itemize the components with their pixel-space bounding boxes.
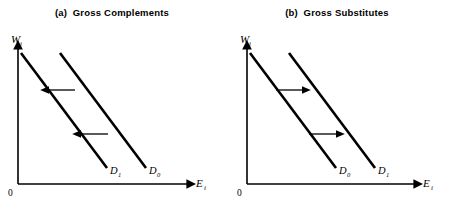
demand-curve-d1 [289,53,375,168]
curve-label-inner: D [338,165,347,176]
panel-gross-complements: (a) Gross Complements W i E i 0 [0,0,224,212]
origin-label: 0 [237,188,242,198]
x-axis-label-subscript: i [204,184,206,192]
y-axis-label-subscript: i [20,40,22,48]
curve-label-outer-subscript: 0 [157,171,161,178]
panel-b-plot: W i E i 0 D 0 D 1 [225,0,449,212]
curve-label-outer: D [148,165,157,176]
panel-a-plot: W i E i 0 D 1 D 0 [0,0,224,212]
curve-label-inner-subscript: 1 [118,171,121,178]
curve-label-inner: D [109,165,118,176]
x-axis-label: E [195,177,203,189]
demand-curve-d1 [21,53,107,168]
economics-figure: (a) Gross Complements W i E i 0 [0,0,449,212]
panel-gross-substitutes: (b) Gross Substitutes W i E i 0 [225,0,449,212]
x-axis-label: E [422,177,430,189]
curve-label-outer: D [377,165,386,176]
demand-curve-d0 [60,53,146,168]
curve-label-outer-subscript: 1 [386,171,389,178]
curve-label-inner-subscript: 0 [347,171,351,178]
x-axis-label-subscript: i [431,184,433,192]
y-axis-label-subscript: i [249,40,251,48]
demand-curve-d0 [250,53,336,168]
origin-label: 0 [8,188,13,198]
